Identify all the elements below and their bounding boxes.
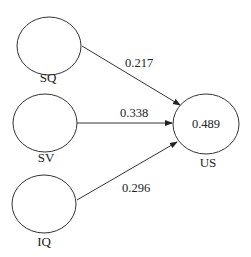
node-sq — [17, 17, 81, 75]
node-us-label: US — [200, 155, 217, 170]
edge-sq-us — [82, 46, 180, 105]
path-diagram: 0.217 0.338 0.296 SQ SV IQ 0.489 US — [0, 0, 251, 257]
node-sq-label: SQ — [40, 70, 57, 85]
coef-iq-us: 0.296 — [122, 181, 150, 195]
coef-sv-us: 0.338 — [120, 106, 148, 120]
coef-sq-us: 0.217 — [125, 56, 153, 70]
node-iq-label: IQ — [37, 234, 51, 249]
node-us-value: 0.489 — [192, 117, 220, 131]
node-iq — [12, 175, 76, 233]
node-sv — [13, 94, 77, 152]
node-sv-label: SV — [38, 150, 55, 165]
